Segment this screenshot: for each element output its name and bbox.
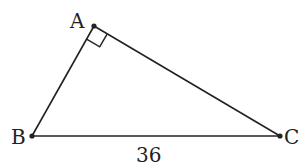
- vertex-a-label: A: [69, 9, 85, 33]
- side-ab: [32, 26, 94, 136]
- triangle-diagram: A B C 36: [0, 0, 303, 168]
- vertex-c-point: [277, 133, 282, 138]
- vertex-b-point: [29, 133, 34, 138]
- vertex-a-point: [91, 23, 96, 28]
- vertex-c-label: C: [284, 125, 299, 149]
- side-ac: [94, 26, 280, 136]
- vertex-b-label: B: [11, 125, 26, 149]
- right-angle-marker: [87, 34, 108, 47]
- side-bc-length-label: 36: [136, 143, 161, 167]
